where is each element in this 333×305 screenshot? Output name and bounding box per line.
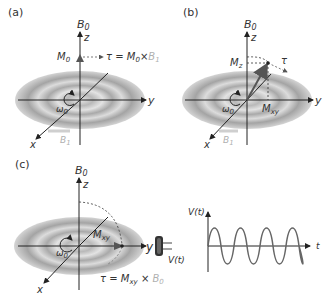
panel-c: (c) B0 z y x ω0 Mxy τ = Mxy × B0 V(t)	[14, 158, 185, 295]
svg-text:B1: B1	[60, 135, 71, 147]
signal-plot: V(t) t	[188, 207, 320, 272]
svg-text:B0: B0	[75, 164, 88, 178]
svg-text:z: z	[83, 32, 90, 43]
svg-text:τ: τ	[281, 55, 288, 66]
svg-text:τ = M0×B1: τ = M0×B1	[106, 51, 160, 64]
panel-b: (b) B0 z y x ω0 Mz Mxy τ B1	[182, 6, 322, 150]
svg-text:x: x	[29, 139, 36, 150]
svg-text:B1: B1	[223, 135, 234, 147]
panel-c-label: (c)	[15, 158, 30, 171]
svg-text:Mz: Mz	[230, 57, 243, 70]
svg-text:t: t	[316, 241, 320, 251]
svg-text:V(t): V(t)	[188, 207, 205, 217]
svg-text:y: y	[147, 94, 155, 107]
panel-b-label: (b)	[183, 6, 199, 19]
svg-text:B0: B0	[77, 18, 90, 32]
svg-text:τ = Mxy × B0: τ = Mxy × B0	[100, 273, 164, 286]
svg-text:B0: B0	[244, 18, 257, 32]
svg-text:y: y	[314, 94, 322, 107]
svg-text:z: z	[82, 179, 89, 190]
svg-text:M0: M0	[57, 51, 71, 64]
panel-a: (a) B0 z y x ω0 M0 τ = M0×B1 B1	[8, 6, 160, 150]
svg-text:y: y	[145, 240, 154, 254]
svg-text:z: z	[250, 32, 257, 43]
svg-text:V(t): V(t)	[168, 255, 185, 265]
receiver-coil-icon	[155, 236, 172, 256]
svg-text:x: x	[203, 139, 210, 150]
svg-text:x: x	[36, 284, 43, 295]
m0-vector-icon	[76, 54, 84, 62]
panel-a-label: (a)	[8, 6, 23, 19]
mri-precession-diagram: (a) B0 z y x ω0 M0 τ = M0×B1 B1 (b)	[0, 0, 333, 305]
